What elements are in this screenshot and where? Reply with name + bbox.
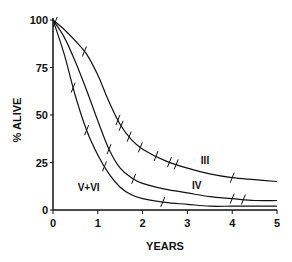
x-tick-label: 2 [140,217,146,229]
curve-label: IV [192,180,202,191]
curve-label: III [201,155,210,166]
x-tick-label: 4 [229,217,236,229]
y-tick-label: 0 [42,204,48,216]
censor-tick [82,47,86,57]
y-tick-label: 75 [36,62,48,74]
chart-canvas: 0123450255075100YEARS% ALIVEIIIIVV+VI [0,0,292,262]
y-tick-label: 25 [36,157,48,169]
x-tick-label: 1 [95,217,101,229]
survival-chart: 0123450255075100YEARS% ALIVEIIIIVV+VI [0,0,292,262]
curve-label: V+VI [78,182,100,193]
y-tick-label: 100 [30,14,48,26]
y-tick-label: 50 [36,109,48,121]
curve-iii [53,20,277,182]
x-tick-label: 0 [50,217,56,229]
x-axis-title: YEARS [146,240,184,252]
censor-tick [127,132,131,142]
x-tick-label: 5 [274,217,280,229]
x-tick-label: 3 [184,217,190,229]
y-axis-title: % ALIVE [11,98,23,143]
